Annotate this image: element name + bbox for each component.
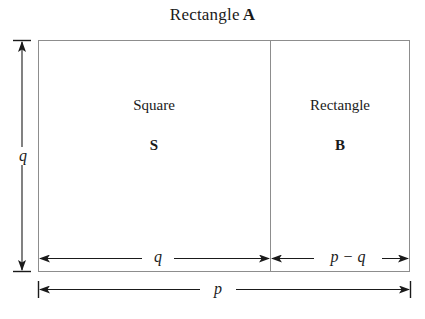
dimension-label-width-p-minus-q: p − q [314, 248, 382, 266]
dimension-label-height-q: q [8, 147, 38, 165]
dimension-label-width-p: p [200, 280, 236, 298]
dimension-label-width-q: q [142, 248, 174, 266]
geometry-figure: RectangleA Square S Rectangle B [0, 0, 425, 319]
dimension-arrows [0, 0, 425, 319]
